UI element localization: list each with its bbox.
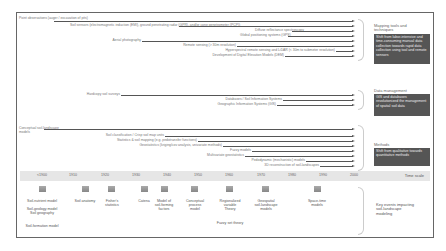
- timeline-arrow: [277, 105, 353, 106]
- item-label: Development of Digital Elevation Models …: [210, 54, 284, 58]
- group-summary-box: Shift from qualitative towards quantitat…: [374, 148, 430, 166]
- event-label: Soil-nutrient model: [27, 199, 57, 203]
- tick-label: 1950: [194, 173, 202, 177]
- timeline-arrow: [44, 129, 353, 130]
- event-label: Regionalized variable Theory: [220, 199, 241, 212]
- event-marker: [82, 186, 89, 192]
- item-label: Global positioning systems (GPS): [240, 34, 287, 38]
- events-title: Key events impacting soil-landscape mode…: [376, 203, 416, 216]
- tick-label: 1920: [101, 173, 109, 177]
- timeline-arrow: [252, 151, 353, 152]
- item-label: Aerial photography: [100, 39, 141, 43]
- tick-label: 1910: [69, 173, 77, 177]
- event-label: Conceptual process model: [186, 199, 204, 212]
- timeline-arrow: [237, 46, 353, 47]
- group-title: Data management: [374, 89, 407, 93]
- event-marker: [39, 186, 46, 192]
- events-brace: [358, 187, 364, 235]
- event-label: Soil-geology model Soil geography: [27, 207, 58, 215]
- timeline-arrow: [292, 31, 353, 32]
- tick-label: 1970: [257, 173, 265, 177]
- tick-label: 1930: [132, 173, 140, 177]
- event-marker: [108, 186, 115, 192]
- group-summary-box: GIS and databases revolutionized the man…: [374, 94, 430, 116]
- tick-label: 1940: [163, 173, 171, 177]
- event-label: Model of soil-forming factors: [155, 199, 174, 212]
- tick-label: 1980: [288, 173, 296, 177]
- timeline-arrow: [54, 21, 353, 22]
- group-brace: [358, 125, 364, 171]
- group-brace: [358, 90, 364, 110]
- group-summary-box: Shift from labor-intensive and time-cons…: [374, 34, 430, 64]
- group-brace: [358, 19, 364, 61]
- item-label: Geostatistics (kriging/cov analysis, uni…: [80, 144, 222, 148]
- timeline-arrow: [288, 36, 353, 37]
- timeline-arrow: [245, 156, 353, 157]
- timeline-arrow: [336, 51, 353, 52]
- tick-label: 2000: [350, 173, 358, 177]
- event-label: Soil anatomy: [75, 199, 96, 203]
- event-marker: [161, 186, 168, 192]
- timeline-arrow: [283, 100, 353, 101]
- time-axis-bar: <1900 1910 1920 1930 1940 1950 1960 1970…: [20, 171, 430, 181]
- event-label: Fisher's statistics: [105, 199, 119, 207]
- group-title: Methods: [374, 143, 389, 147]
- event-marker: [141, 186, 148, 192]
- event-marker: [191, 186, 198, 192]
- timeline-arrow: [285, 56, 353, 57]
- timeline-arrow: [165, 136, 353, 137]
- tick-label: 1960: [225, 173, 233, 177]
- event-label: Space-time models: [308, 199, 326, 207]
- item-label: 3D reconstruction of soil-landscapes: [255, 164, 319, 168]
- item-label: Hardcopy soil surveys: [60, 93, 120, 97]
- event-marker: [262, 186, 269, 192]
- item-label: Soil sensors (electromagnetic induction …: [70, 24, 178, 28]
- item-label: Geographic Information Systems (GIS): [200, 103, 276, 107]
- timeline-arrow: [320, 166, 353, 167]
- timeline-arrow: [198, 141, 353, 142]
- timeline-arrow: [121, 95, 353, 96]
- time-scale-label: Time scale: [405, 173, 424, 178]
- event-label: Fuzzy set theory: [217, 221, 243, 225]
- event-label: Geospatial soil-landscape models: [255, 199, 278, 212]
- event-label: Catena: [138, 199, 150, 203]
- tick-label: <1900: [37, 173, 47, 177]
- tick-label: 1990: [319, 173, 327, 177]
- event-marker: [226, 186, 233, 192]
- group-title-text: Mapping tools and techniques: [374, 24, 414, 33]
- timeline-arrow: [179, 26, 353, 27]
- event-marker: [314, 186, 321, 192]
- timeline-arrow: [306, 161, 353, 162]
- event-label: Soil-formation model: [26, 224, 59, 228]
- group-title: Mapping tools and techniques: [374, 24, 414, 33]
- item-label: Multivariate geostatistics: [200, 154, 244, 158]
- timeline-arrow: [223, 146, 353, 147]
- timeline-arrow: [142, 41, 353, 42]
